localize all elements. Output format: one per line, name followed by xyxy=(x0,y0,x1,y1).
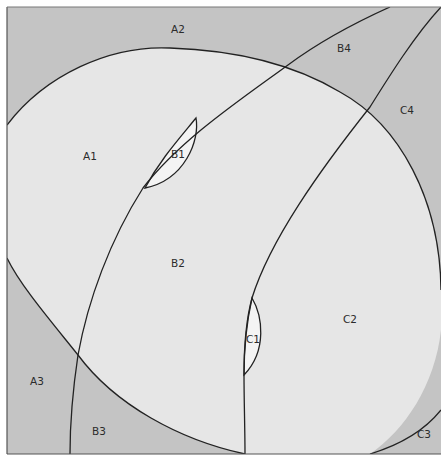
label-a1: A1 xyxy=(83,150,97,162)
label-c1: C1 xyxy=(246,333,260,345)
label-b1: B1 xyxy=(171,148,185,160)
region-diagram: A1 A2 A3 B1 B2 B3 B4 C1 C2 C3 C4 xyxy=(0,0,443,463)
label-c4: C4 xyxy=(400,104,414,116)
label-a3: A3 xyxy=(30,375,44,387)
label-b2: B2 xyxy=(171,257,185,269)
label-b3: B3 xyxy=(92,425,106,437)
label-b4: B4 xyxy=(337,42,351,54)
label-c2: C2 xyxy=(343,313,357,325)
label-a2: A2 xyxy=(171,23,185,35)
label-c3: C3 xyxy=(417,428,431,440)
